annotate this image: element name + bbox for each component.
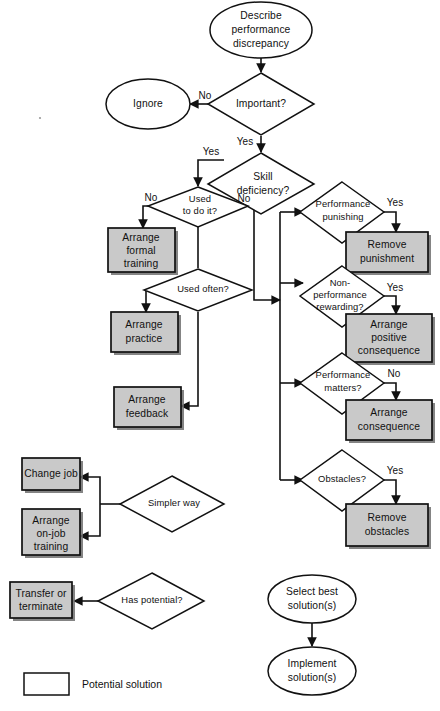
node-describe-performance-discrepancy[interactable]: Describe performance discrepancy bbox=[210, 2, 312, 58]
node-transfer-or-terminate[interactable]: Transfer or terminate bbox=[10, 582, 75, 621]
node-has-potential-label: Has potential? bbox=[121, 594, 182, 605]
node-transfer-or-terminate-line-2: terminate bbox=[19, 601, 63, 612]
node-performance-punishing-line-1: Performance bbox=[316, 198, 371, 209]
node-non-performance-rewarding-line-3: rewarding? bbox=[316, 301, 363, 312]
node-performance-punishing-line-2: punishing bbox=[322, 211, 363, 222]
node-arrange-formal-training-line-3: training bbox=[124, 258, 159, 269]
node-describe-line-1: Describe bbox=[240, 10, 282, 21]
node-obstacles-label: Obstacles? bbox=[318, 473, 366, 484]
node-arrange-positive-consequence[interactable]: Arrange positive consequence bbox=[346, 314, 435, 365]
node-used-to-do-it-line-1: Used bbox=[189, 193, 211, 204]
flowchart-container: Describe performance discrepancy Importa… bbox=[0, 0, 440, 711]
node-arrange-formal-training-line-2: formal bbox=[126, 245, 155, 256]
edge-label-important-yes: Yes bbox=[237, 136, 253, 147]
node-arrange-feedback-line-1: Arrange bbox=[128, 394, 166, 405]
node-arrange-feedback[interactable]: Arrange feedback bbox=[114, 387, 184, 430]
edge-label-skill-yes: Yes bbox=[203, 146, 219, 157]
node-skill-deficiency-line-1: Skill bbox=[253, 171, 272, 182]
node-remove-punishment-line-1: Remove bbox=[368, 239, 407, 250]
node-important-label: Important? bbox=[236, 98, 286, 109]
node-implement-solution[interactable]: Implement solution(s) bbox=[268, 647, 356, 695]
node-select-best-solution-line-1: Select best bbox=[286, 586, 338, 597]
node-arrange-consequence[interactable]: Arrange consequence bbox=[346, 400, 435, 443]
node-transfer-or-terminate-line-1: Transfer or bbox=[15, 588, 67, 599]
node-change-job[interactable]: Change job bbox=[22, 458, 83, 493]
node-ignore[interactable]: Ignore bbox=[106, 79, 190, 129]
edge-label-used-to-do-it-no: No bbox=[145, 192, 158, 203]
node-performance-matters-line-2: matters? bbox=[324, 382, 361, 393]
node-arrange-consequence-line-2: consequence bbox=[358, 421, 421, 432]
node-implement-solution-line-2: solution(s) bbox=[288, 672, 337, 683]
node-arrange-positive-consequence-line-2: positive bbox=[371, 332, 407, 343]
node-arrange-practice[interactable]: Arrange practice bbox=[111, 312, 181, 355]
node-select-best-solution-line-2: solution(s) bbox=[288, 600, 337, 611]
node-arrange-on-job-training-line-3: training bbox=[34, 541, 69, 552]
edge-label-obstacles-yes: Yes bbox=[387, 465, 403, 476]
node-arrange-feedback-line-2: feedback bbox=[126, 408, 169, 419]
node-arrange-practice-line-2: practice bbox=[126, 333, 163, 344]
node-remove-obstacles[interactable]: Remove obstacles bbox=[346, 504, 431, 549]
node-remove-obstacles-line-1: Remove bbox=[368, 512, 407, 523]
edge-label-non-performance-rewarding-yes: Yes bbox=[387, 282, 403, 293]
node-remove-obstacles-line-2: obstacles bbox=[365, 526, 409, 537]
node-simpler-way-label: Simpler way bbox=[148, 497, 200, 508]
node-remove-punishment-line-2: punishment bbox=[360, 253, 414, 264]
node-arrange-consequence-line-1: Arrange bbox=[370, 407, 408, 418]
node-arrange-positive-consequence-line-1: Arrange bbox=[370, 319, 408, 330]
node-arrange-on-job-training-line-2: on-job bbox=[36, 528, 65, 539]
node-arrange-formal-training[interactable]: Arrange formal training bbox=[108, 228, 178, 275]
edge-label-performance-punishing-yes: Yes bbox=[387, 197, 403, 208]
edge-label-important-no: No bbox=[199, 90, 212, 101]
node-used-often-label: Used often? bbox=[177, 283, 229, 294]
node-used-to-do-it-line-2: to do it? bbox=[183, 205, 217, 216]
node-select-best-solution[interactable]: Select best solution(s) bbox=[268, 575, 356, 623]
node-ignore-label: Ignore bbox=[133, 98, 163, 109]
node-describe-line-2: performance bbox=[232, 24, 291, 35]
node-performance-matters-line-1: Performance bbox=[316, 369, 371, 380]
node-change-job-label: Change job bbox=[24, 468, 78, 479]
node-remove-punishment[interactable]: Remove punishment bbox=[346, 232, 431, 275]
node-arrange-on-job-training[interactable]: Arrange on-job training bbox=[22, 509, 83, 558]
edge-label-performance-matters-no: No bbox=[388, 368, 401, 379]
node-implement-solution-line-1: Implement bbox=[288, 658, 337, 669]
performance-discrepancy-flowchart: Describe performance discrepancy Importa… bbox=[0, 0, 440, 711]
node-arrange-on-job-training-line-1: Arrange bbox=[32, 515, 70, 526]
legend-swatch-potential-solution bbox=[24, 673, 69, 695]
node-describe-line-3: discrepancy bbox=[233, 38, 290, 49]
node-non-performance-rewarding-line-1: Non- bbox=[330, 277, 351, 288]
node-arrange-formal-training-line-1: Arrange bbox=[122, 232, 160, 243]
scan-artifact bbox=[39, 117, 41, 119]
node-arrange-practice-line-1: Arrange bbox=[125, 319, 163, 330]
edge-label-skill-no: No bbox=[238, 193, 251, 204]
legend-label-potential-solution: Potential solution bbox=[82, 678, 162, 690]
node-arrange-positive-consequence-line-3: consequence bbox=[358, 345, 421, 356]
node-non-performance-rewarding-line-2: performance bbox=[313, 289, 367, 300]
